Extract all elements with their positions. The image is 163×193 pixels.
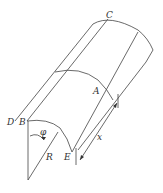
label-phi: φ [40,127,47,137]
label-B: B [18,117,26,127]
shell-diagram: C A D B E R φ x [0,0,163,193]
back-arc [93,20,153,50]
generator-right [78,62,146,150]
generator-left-outer [15,24,93,121]
generator-middle [72,32,138,152]
label-A: A [92,86,100,96]
label-x: x [97,132,102,142]
label-R: R [45,152,53,162]
label-D: D [6,117,14,127]
back-right-edge [146,50,153,62]
label-C: C [106,10,113,20]
x-arrow-bottom [80,155,84,160]
label-E: E [63,152,71,162]
front-arc [27,120,72,152]
